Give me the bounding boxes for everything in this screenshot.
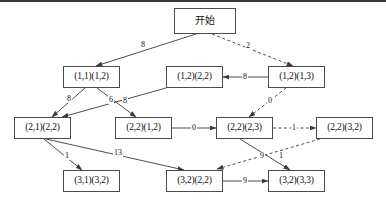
edge-weight-e-start-1213: 2 xyxy=(245,42,251,50)
node-n21_22[interactable]: (2,1)(2,2) xyxy=(14,117,71,139)
node-n32_33[interactable]: (3,2)(3,3) xyxy=(268,170,325,192)
edge-weight-e-2122-3222: 13 xyxy=(113,149,123,157)
diagram-canvas: 开始(1,1)(1,2)(1,2)(2,2)(1,2)(1,3)(2,1)(2,… xyxy=(0,0,386,211)
edge-e-2122-3132 xyxy=(44,139,82,170)
node-start[interactable]: 开始 xyxy=(174,8,236,34)
node-n22_32[interactable]: (2,2)(3,2) xyxy=(316,117,373,139)
edge-weight-e-start-11: 8 xyxy=(140,41,146,49)
node-n12_22[interactable]: (1,2)(2,2) xyxy=(166,66,223,88)
edge-e-start-11 xyxy=(96,34,196,66)
edge-weight-e-1112-2212: 6 xyxy=(108,96,114,104)
node-n22_23[interactable]: (2,2)(2,3) xyxy=(216,117,273,139)
edge-e-start-1213 xyxy=(212,34,293,66)
node-n22_12[interactable]: (2,2)(1,2) xyxy=(115,117,172,139)
edge-e-2232-3222 xyxy=(217,139,320,169)
edge-weight-e-1222-2122: 8 xyxy=(122,97,128,105)
node-n31_32[interactable]: (3,1)(3,2) xyxy=(63,170,120,192)
edge-weight-e-2232-3222: 1 xyxy=(278,152,284,160)
edge-weight-e-2223-3233: 9 xyxy=(259,152,265,160)
edge-e-1112-2212 xyxy=(97,88,136,117)
edge-weight-e-3222-3233: 9 xyxy=(242,177,248,185)
edge-weight-e-2212-2223: 0 xyxy=(191,124,197,132)
edge-e-1222-2122 xyxy=(62,88,166,117)
edge-weight-e-2223-2232: 1 xyxy=(291,124,297,132)
node-n11_12[interactable]: (1,1)(1,2) xyxy=(63,66,120,88)
edge-weight-e-1213-1222: 8 xyxy=(242,73,248,81)
node-n32_22[interactable]: (3,2)(2,2) xyxy=(166,170,223,192)
edge-weight-e-1213-2223: 0 xyxy=(267,97,273,105)
edge-weight-e-2122-3132: 1 xyxy=(64,152,70,160)
edge-weight-e-1112-2122: 8 xyxy=(66,95,72,103)
node-n12_13[interactable]: (1,2)(1,3) xyxy=(268,66,325,88)
